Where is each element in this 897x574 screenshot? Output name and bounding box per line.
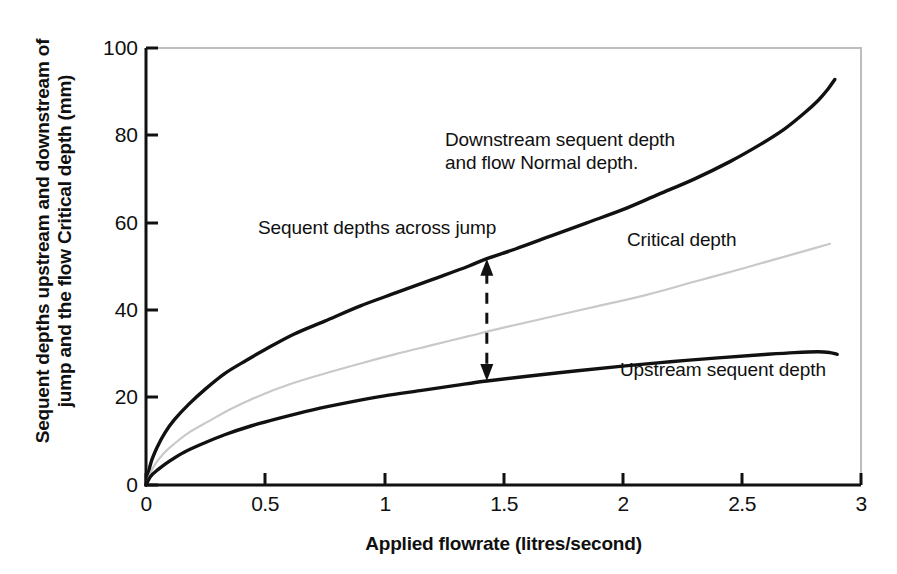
annotation-critical-depth: Critical depth — [627, 228, 736, 251]
y-tick-40: 40 — [82, 298, 138, 322]
sequent-depth-span-arrow — [480, 259, 493, 381]
y-tick-60: 60 — [82, 211, 138, 235]
axis-lines — [146, 48, 861, 485]
y-tick-100: 100 — [82, 36, 138, 60]
y-tick-20: 20 — [82, 385, 138, 409]
x-tick-2: 2 — [617, 492, 628, 516]
x-tick-1: 1 — [379, 492, 390, 516]
x-axis-ticks — [146, 473, 861, 485]
x-tick-0_5: 0.5 — [251, 492, 279, 516]
plot-frame — [146, 48, 861, 485]
y-axis-ticks — [146, 48, 158, 485]
annotation-upstream-sequent-depth: Upstream sequent depth — [620, 358, 826, 381]
y-axis-tick-labels: 0 20 40 60 80 100 — [78, 0, 138, 574]
chart-figure: Sequent depths upstream and downstream o… — [0, 0, 897, 574]
arrow-head-bottom — [480, 364, 493, 381]
x-axis-tick-labels: 0 0.5 1 1.5 2 2.5 3 — [0, 492, 897, 522]
y-tick-80: 80 — [82, 123, 138, 147]
x-axis-title: Applied flowrate (litres/second) — [146, 533, 861, 555]
x-tick-1_5: 1.5 — [490, 492, 518, 516]
annotation-downstream-sequent-depth: Downstream sequent depth and flow Normal… — [445, 128, 675, 174]
x-tick-3: 3 — [855, 492, 866, 516]
annotation-sequent-depths-across-jump: Sequent depths across jump — [258, 216, 496, 239]
x-tick-2_5: 2.5 — [728, 492, 756, 516]
x-tick-0: 0 — [140, 492, 151, 516]
